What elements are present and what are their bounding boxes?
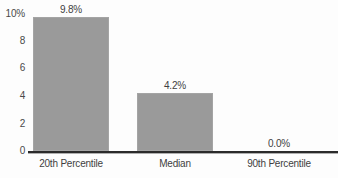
category-label-20th-percentile: 20th Percentile bbox=[19, 158, 123, 169]
y-tick-label-4: 4 bbox=[20, 91, 25, 101]
y-tick-label-10: 10% bbox=[6, 9, 25, 19]
x-axis-line bbox=[28, 151, 338, 153]
value-label-median: 4.2% bbox=[137, 80, 213, 91]
category-label-90th-percentile: 90th Percentile bbox=[227, 158, 331, 169]
y-tick-label-2: 2 bbox=[20, 119, 25, 129]
value-label-90th-percentile: 0.0% bbox=[241, 138, 317, 149]
category-label-median: Median bbox=[123, 158, 227, 169]
y-axis: 10% 8 6 4 2 0 bbox=[0, 0, 28, 178]
bar-20th-percentile[interactable] bbox=[33, 17, 109, 151]
y-tick-label-6: 6 bbox=[20, 63, 25, 73]
plot-area: 9.8% 4.2% 0.0% 20th Percentile Median 90… bbox=[28, 0, 338, 178]
bar-chart: 10% 8 6 4 2 0 9.8% 4.2% 0.0% 20th Percen… bbox=[0, 0, 338, 178]
y-tick-label-0: 0 bbox=[20, 146, 25, 156]
bar-median[interactable] bbox=[137, 93, 213, 151]
y-tick-label-8: 8 bbox=[20, 36, 25, 46]
value-label-20th-percentile: 9.8% bbox=[33, 4, 109, 15]
